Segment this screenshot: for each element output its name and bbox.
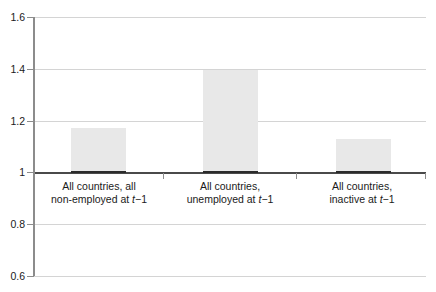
x-label-line-2-post: −1 [135,193,147,205]
x-label-line-2-pre: inactive at [329,193,379,205]
bar-unemployed[interactable] [203,70,258,172]
bar-cap-all-non-employed [71,171,126,173]
x-tick-mark-1 [163,173,164,179]
y-tick-mark-1 [27,172,34,173]
x-label-line-2: inactive at t−1 [299,193,425,206]
y-axis-spine [33,17,35,276]
y-tick-mark-1.2 [27,121,34,122]
y-tick-label-0.8: 0.8 [1,219,25,230]
gridline-0.8 [34,224,426,225]
y-tick-mark-1.4 [27,69,34,70]
gridline-1.6 [34,17,426,18]
x-label-line-2: non-employed at t−1 [34,193,164,206]
bar-all-non-employed[interactable] [71,128,126,172]
x-label-line-2-post: −1 [261,193,273,205]
y-tick-label-1.6: 1.6 [1,12,25,23]
y-tick-label-1.2: 1.2 [1,116,25,127]
y-tick-label-0.6: 0.6 [1,271,25,282]
x-label-line-1: All countries, all [62,180,136,192]
x-label-line-2: unemployed at t−1 [166,193,294,206]
x-tick-mark-2 [296,173,297,179]
bar-cap-inactive [336,171,391,173]
bar-cap-unemployed [203,171,258,173]
x-category-label-all-non-employed: All countries, all non-employed at t−1 [34,180,164,206]
x-category-label-unemployed: All countries, unemployed at t−1 [166,180,294,206]
x-label-line-1: All countries, [332,180,392,192]
x-label-line-2-pre: non-employed at [51,193,132,205]
y-tick-mark-0.6 [27,276,34,277]
x-label-line-2-pre: unemployed at [187,193,259,205]
y-tick-mark-1.6 [27,17,34,18]
x-label-line-2-post: −1 [383,193,395,205]
bar-inactive[interactable] [336,139,391,172]
x-tick-mark-3 [425,173,426,179]
bar-chart-figure: 1.6 1.4 1.2 1 0.8 0.6 All countries, all… [0,0,436,292]
y-tick-label-1: 1 [1,167,25,178]
y-tick-label-1.4: 1.4 [1,64,25,75]
gridline-0.6 [34,276,426,277]
y-tick-mark-0.8 [27,224,34,225]
x-category-label-inactive: All countries, inactive at t−1 [299,180,425,206]
x-label-line-1: All countries, [200,180,260,192]
